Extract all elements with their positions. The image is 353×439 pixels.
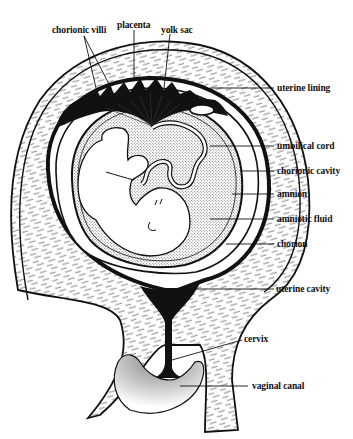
label-cervix: cervix — [244, 334, 268, 344]
label-chorion: chorion — [277, 239, 307, 249]
label-chorionic-villi: chorionic villi — [52, 25, 106, 35]
label-placenta: placenta — [117, 20, 151, 30]
pregnant-uterus-diagram: chorionic villi placenta yolk sac uterin… — [0, 0, 353, 439]
label-uterine-lining: uterine lining — [277, 83, 330, 93]
label-yolk-sac: yolk sac — [161, 25, 193, 35]
label-chorionic-cavity: chorionic cavity — [277, 166, 340, 176]
label-umbilical-cord: umbilical cord — [277, 141, 334, 151]
label-amnion: amnion — [277, 189, 307, 199]
label-amniotic-fluid: amniotic fluid — [277, 214, 332, 224]
label-vaginal-canal: vaginal canal — [252, 381, 304, 391]
vaginal-canal-shape — [114, 355, 203, 413]
label-uterine-cavity: uterine cavity — [276, 284, 330, 294]
